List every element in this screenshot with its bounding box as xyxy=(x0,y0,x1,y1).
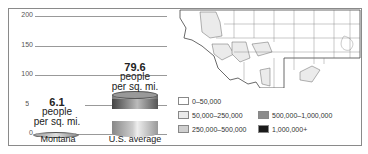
legend-label: 50,000–250,000 xyxy=(192,112,243,119)
gridline xyxy=(35,16,167,17)
montana-value-label: 6.1 people per sq. mi. xyxy=(29,97,85,127)
legend-label: 1,000,000+ xyxy=(272,126,307,133)
legend-swatch xyxy=(178,97,189,105)
legend-item: 500,000–1,000,000 xyxy=(258,111,332,119)
legend-item: 0–50,000 xyxy=(178,97,221,105)
legend-swatch xyxy=(258,111,269,119)
category-montana: Montana xyxy=(33,134,83,144)
legend-label: 250,000–500,000 xyxy=(192,126,247,133)
legend-label: 500,000–1,000,000 xyxy=(272,112,332,119)
figure-frame: 200 150 100 50 0 6.1 people per sq. mi. … xyxy=(8,8,362,146)
us-value-label: 79.6 people per sq. mi. xyxy=(107,62,163,92)
cylinder-band-dark xyxy=(112,99,158,109)
y-tick-150: 150 xyxy=(13,41,33,48)
legend-label: 0–50,000 xyxy=(192,98,221,105)
category-us-average: U.S. average xyxy=(105,134,165,144)
legend-item: 1,000,000+ xyxy=(258,125,307,133)
map-legend: 0–50,000 50,000–250,000 250,000–500,000 … xyxy=(174,91,362,143)
legend-item: 50,000–250,000 xyxy=(178,111,243,119)
y-tick-100: 100 xyxy=(13,70,33,77)
cylinder-top xyxy=(112,91,158,99)
montana-unit2: per sq. mi. xyxy=(34,116,81,127)
y-tick-0: 0 xyxy=(13,129,33,136)
legend-swatch xyxy=(258,125,269,133)
legend-swatch xyxy=(178,111,189,119)
us-average-cylinder xyxy=(112,95,158,137)
y-tick-200: 200 xyxy=(13,11,33,18)
legend-swatch xyxy=(178,125,189,133)
cylinder-band-white xyxy=(112,109,158,121)
gridline xyxy=(35,46,167,47)
population-density-chart: 200 150 100 50 0 6.1 people per sq. mi. … xyxy=(9,9,169,147)
legend-item: 250,000–500,000 xyxy=(178,125,247,133)
us-unit2: per sq. mi. xyxy=(112,81,159,92)
montana-county-map xyxy=(174,8,362,88)
